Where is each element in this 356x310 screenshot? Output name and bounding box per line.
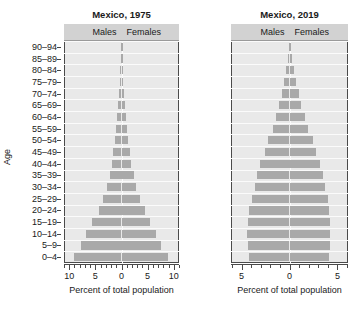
x-major-tick xyxy=(95,265,96,270)
x-minor-tick xyxy=(280,265,281,268)
population-pyramid-figure: Age 0–45–910–1415–1920–2425–2930–3435–39… xyxy=(0,0,356,310)
y-axis-label: Age xyxy=(2,137,12,177)
panel-mexico-1975: Mexico, 1975MalesFemales xyxy=(64,24,179,263)
bar-female xyxy=(290,230,331,238)
age-tick-label: 65–69 xyxy=(32,101,57,110)
x-minor-tick xyxy=(85,265,86,268)
bar-female xyxy=(122,89,125,97)
bar-male xyxy=(268,136,289,144)
x-tick-label: 5 xyxy=(93,271,98,281)
age-tick-mark xyxy=(57,245,61,246)
bar-female xyxy=(122,218,151,226)
x-major-tick xyxy=(69,265,70,270)
age-tick-mark xyxy=(57,117,61,118)
x-minor-tick xyxy=(90,265,91,268)
bar-female xyxy=(122,183,137,191)
x-minor-tick xyxy=(132,265,133,268)
bar-female xyxy=(290,43,291,51)
bar-female xyxy=(122,195,140,203)
legend-label-males: Males xyxy=(92,27,116,37)
legend-label-males: Males xyxy=(260,27,284,37)
bar-male xyxy=(265,148,290,156)
age-tick-mark xyxy=(57,257,61,258)
age-tick-label: 80–84 xyxy=(32,66,57,75)
x-minor-tick xyxy=(163,265,164,268)
bar-female xyxy=(290,160,321,168)
bar-male xyxy=(276,113,289,121)
age-tick-mark xyxy=(57,164,61,165)
bar-female xyxy=(122,241,161,249)
plot-area xyxy=(231,41,348,263)
age-tick-label: 60–64 xyxy=(32,112,57,121)
age-tick-label: 55–59 xyxy=(32,124,57,133)
x-minor-tick xyxy=(116,265,117,268)
x-minor-tick xyxy=(328,265,329,268)
age-tick-label: 35–39 xyxy=(32,171,57,180)
x-minor-tick xyxy=(179,265,180,268)
age-tick-label: 50–54 xyxy=(32,136,57,145)
x-major-tick xyxy=(337,265,338,270)
age-tick-mark xyxy=(57,59,61,60)
bar-female xyxy=(290,66,294,74)
age-tick-label: 45–49 xyxy=(32,148,57,157)
bar-male xyxy=(249,253,290,261)
legend-label-females: Females xyxy=(295,27,330,37)
x-minor-tick xyxy=(318,265,319,268)
x-minor-tick xyxy=(158,265,159,268)
bar-male xyxy=(247,230,289,238)
bar-female xyxy=(122,125,128,133)
bar-female xyxy=(290,54,292,62)
bar-male xyxy=(248,218,290,226)
x-minor-tick xyxy=(111,265,112,268)
legend-label-females: Females xyxy=(127,27,162,37)
bar-female xyxy=(122,230,157,238)
bar-female xyxy=(122,206,145,214)
x-minor-tick xyxy=(137,265,138,268)
bar-male xyxy=(99,206,122,214)
bar-female xyxy=(122,148,130,156)
bar-female xyxy=(290,101,302,109)
bar-female xyxy=(290,253,329,261)
bar-male xyxy=(282,89,290,97)
bar-female xyxy=(122,113,127,121)
bar-female xyxy=(122,253,169,261)
x-minor-tick xyxy=(142,265,143,268)
legend-header-band: MalesFemales xyxy=(64,24,179,41)
bar-female xyxy=(290,113,305,121)
age-tick-mark xyxy=(57,210,61,211)
age-tick-label: 85–89 xyxy=(32,54,57,63)
x-tick-label: 5 xyxy=(239,271,244,281)
bar-male xyxy=(249,206,289,214)
bar-male xyxy=(112,160,122,168)
bar-female xyxy=(290,125,309,133)
age-axis: 0–45–910–1415–1920–2425–2930–3435–3940–4… xyxy=(18,41,61,263)
age-tick-label: 90–94 xyxy=(32,42,57,51)
bar-female xyxy=(290,218,331,226)
bar-female xyxy=(290,183,326,191)
bar-male xyxy=(107,183,121,191)
age-tick-label: 30–34 xyxy=(32,183,57,192)
age-tick-mark xyxy=(57,222,61,223)
age-tick-mark xyxy=(57,187,61,188)
bar-male xyxy=(257,171,289,179)
age-tick-mark xyxy=(57,94,61,95)
bar-female xyxy=(122,136,129,144)
bar-male xyxy=(74,253,122,261)
x-major-tick xyxy=(174,265,175,270)
age-tick-mark xyxy=(57,47,61,48)
panel-title: Mexico, 1975 xyxy=(64,9,179,20)
age-tick-mark xyxy=(57,82,61,83)
x-tick-label: 5 xyxy=(145,271,150,281)
bar-male xyxy=(86,230,122,238)
bar-female xyxy=(122,101,125,109)
plot-area xyxy=(64,41,179,263)
x-minor-tick xyxy=(64,265,65,268)
bar-male xyxy=(103,195,121,203)
age-tick-label: 40–44 xyxy=(32,159,57,168)
bar-female xyxy=(122,54,123,62)
x-minor-tick xyxy=(251,265,252,268)
age-tick-mark xyxy=(57,140,61,141)
x-axis-label: Percent of total population xyxy=(64,285,179,295)
bar-male xyxy=(260,160,289,168)
x-tick-label: 0 xyxy=(119,271,124,281)
